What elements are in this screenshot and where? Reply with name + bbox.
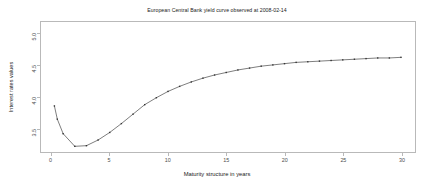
x-tick-label: 25 (340, 157, 346, 163)
x-tick-mark (285, 153, 286, 156)
data-point-marker (144, 104, 145, 105)
y-axis: 3.54.04.55.0 (0, 21, 40, 153)
data-point-marker (284, 63, 285, 64)
data-point-marker (342, 59, 343, 60)
data-point-marker (97, 139, 98, 140)
x-tick-label: 30 (399, 157, 405, 163)
x-tick-mark (168, 153, 169, 156)
data-point-marker (400, 57, 401, 58)
chart-title: European Central Bank yield curve observ… (0, 7, 434, 13)
x-tick-label: 20 (282, 157, 288, 163)
data-point-marker (156, 97, 157, 98)
x-tick-mark (51, 153, 52, 156)
y-tick-label: 4.5 (30, 65, 36, 73)
data-point-marker (179, 86, 180, 87)
x-axis: 051015202530 (40, 153, 416, 167)
yield-curve-line (41, 22, 415, 152)
data-point-marker (272, 64, 273, 65)
data-point-marker (57, 118, 58, 119)
series-line (54, 57, 401, 146)
data-point-marker (261, 65, 262, 66)
x-tick-label: 5 (108, 157, 111, 163)
x-tick-label: 15 (223, 157, 229, 163)
x-tick-mark (402, 153, 403, 156)
data-point-marker (214, 74, 215, 75)
data-point-marker (365, 58, 366, 59)
data-point-marker (74, 146, 75, 147)
x-tick-mark (343, 153, 344, 156)
data-point-marker (86, 145, 87, 146)
data-point-marker (295, 62, 296, 63)
plot-panel (40, 21, 416, 153)
data-point-marker (377, 57, 378, 58)
data-point-marker (202, 77, 203, 78)
data-point-marker (307, 61, 308, 62)
data-point-marker (330, 60, 331, 61)
data-point-marker (121, 123, 122, 124)
data-point-marker (354, 59, 355, 60)
y-tick-label: 3.5 (30, 129, 36, 137)
data-point-marker (319, 60, 320, 61)
x-axis-title: Maturity structure in years (0, 171, 434, 177)
x-tick-mark (226, 153, 227, 156)
data-point-marker (389, 57, 390, 58)
data-point-marker (249, 67, 250, 68)
x-tick-label: 0 (49, 157, 52, 163)
y-tick-label: 4.0 (30, 97, 36, 105)
data-point-marker (62, 133, 63, 134)
data-point-marker (54, 105, 55, 106)
x-tick-mark (109, 153, 110, 156)
data-point-marker (132, 113, 133, 114)
chart-page: European Central Bank yield curve observ… (0, 0, 434, 188)
y-tick-label: 5.0 (30, 33, 36, 41)
data-point-marker (109, 132, 110, 133)
data-point-marker (191, 81, 192, 82)
plot-area (41, 22, 415, 152)
data-point-marker (237, 69, 238, 70)
data-point-marker (226, 72, 227, 73)
data-point-marker (167, 91, 168, 92)
x-tick-label: 10 (165, 157, 171, 163)
